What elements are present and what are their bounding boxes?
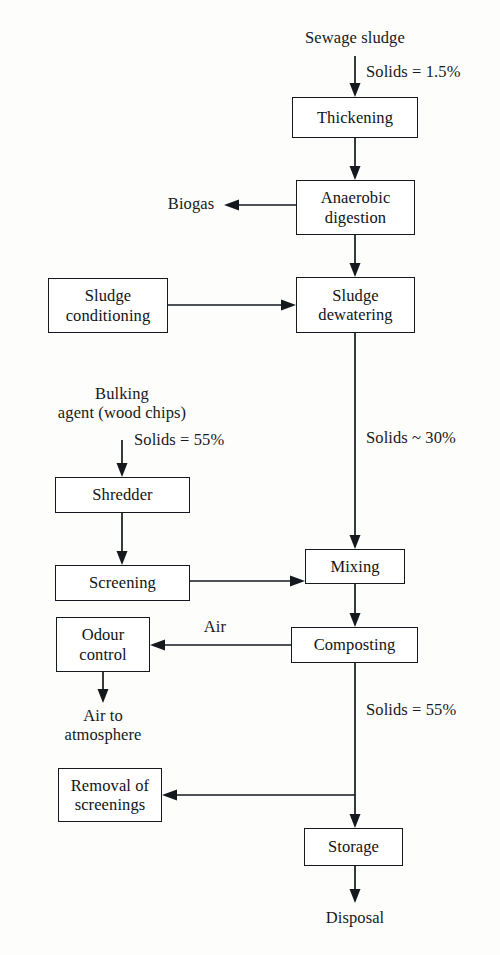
connector-conditioning-to-dewatering <box>168 300 296 311</box>
connector-composting-to-removal <box>162 663 355 801</box>
box-screening[interactable]: Screening <box>55 565 190 601</box>
connector-thickening-to-digestion <box>350 137 361 180</box>
label-air-to-atmosphere: Air to atmosphere <box>38 706 168 744</box>
label-disposal: Disposal <box>300 908 410 927</box>
connector-composting-to-odour <box>150 640 291 651</box>
connector-sewage-to-thickening <box>350 56 361 97</box>
box-mixing[interactable]: Mixing <box>305 549 405 584</box>
connector-digestion-to-dewatering <box>350 235 361 277</box>
connector-odour-to-atmosphere <box>98 672 109 703</box>
label-solids-inlet: Solids = 1.5% <box>366 62 496 81</box>
connector-dewatering-to-mixing <box>350 333 361 549</box>
connector-mixing-to-composting <box>350 584 361 627</box>
connector-main-to-storage <box>350 795 361 828</box>
label-bulking-agent: Bulking agent (wood chips) <box>32 384 212 422</box>
connector-digestion-to-biogas <box>224 200 297 211</box>
box-sludge-conditioning[interactable]: Sludge conditioning <box>48 278 168 333</box>
box-composting[interactable]: Composting <box>291 627 418 663</box>
connector-screening-to-mixing <box>190 576 305 587</box>
connector-shredder-to-screening <box>117 513 128 565</box>
label-biogas: Biogas <box>158 194 224 213</box>
connector-bulking-to-shredder <box>117 440 128 477</box>
box-shredder[interactable]: Shredder <box>55 477 190 513</box>
connector-storage-to-disposal <box>350 866 361 903</box>
box-storage[interactable]: Storage <box>304 828 403 866</box>
box-removal-of-screenings[interactable]: Removal of screenings <box>58 768 162 822</box>
box-thickening[interactable]: Thickening <box>292 97 418 138</box>
box-odour-control[interactable]: Odour control <box>56 617 150 672</box>
label-solids-compost: Solids = 55% <box>366 700 496 719</box>
box-anaerobic-digestion[interactable]: Anaerobic digestion <box>296 180 415 235</box>
label-air: Air <box>192 617 238 636</box>
label-solids-dewatered: Solids ~ 30% <box>366 428 496 447</box>
label-sewage-sludge: Sewage sludge <box>285 28 425 47</box>
flowchart-canvas: Sewage sludge Solids = 1.5% Biogas Bulki… <box>0 0 500 955</box>
box-sludge-dewatering[interactable]: Sludge dewatering <box>296 277 415 333</box>
label-solids-bulking: Solids = 55% <box>134 430 264 449</box>
